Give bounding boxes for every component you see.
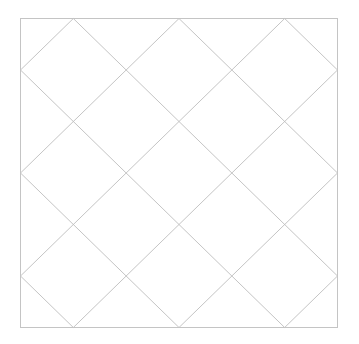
- up-diagonal-line: [21, 19, 74, 71]
- diagonal-lines: [21, 19, 338, 328]
- diamond-lattice-diagram: [0, 0, 359, 344]
- down-diagonal-line: [21, 173, 180, 328]
- down-diagonal-line: [21, 276, 74, 328]
- up-diagonal-line: [73, 70, 337, 328]
- up-diagonal-line: [21, 19, 285, 277]
- up-diagonal-line: [179, 173, 338, 328]
- down-diagonal-line: [73, 19, 337, 277]
- down-diagonal-line: [21, 70, 285, 328]
- up-diagonal-line: [21, 19, 180, 174]
- down-diagonal-line: [285, 19, 338, 71]
- down-diagonal-line: [179, 19, 338, 174]
- frame-border: [21, 19, 338, 328]
- up-diagonal-line: [285, 276, 338, 328]
